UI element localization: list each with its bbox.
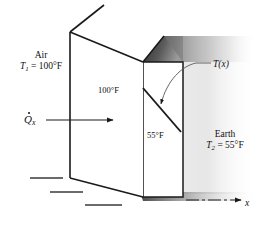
heat-flux-rate-dot-icon — [28, 112, 30, 114]
earth-temp-subscript: 2 — [212, 144, 215, 151]
earth-temp-value: = 55°F — [217, 140, 243, 150]
heat-flux-label: Q x — [24, 113, 35, 128]
x-axis-label: x — [245, 198, 249, 209]
temperature-profile-label: T(x) — [213, 59, 229, 70]
wall-heat-conduction-figure — [0, 0, 260, 234]
heat-flux-subscript: x — [32, 118, 36, 127]
air-temp-value: = 100°F — [31, 61, 62, 71]
air-medium-label: Air — [35, 50, 48, 60]
inner-surface-temp-label: 100°F — [98, 86, 119, 96]
earth-medium-label: Earth — [215, 129, 236, 139]
air-temp-subscript: 1 — [25, 65, 28, 72]
wall-top-back-edge — [70, 5, 104, 32]
heat-flux-symbol: Q — [24, 113, 32, 125]
earth-side-label: Earth T2 = 55°F — [196, 129, 254, 151]
outer-surface-temp-label: 55°F — [147, 131, 164, 141]
air-side-label: Air T1 = 100°F — [8, 50, 74, 72]
